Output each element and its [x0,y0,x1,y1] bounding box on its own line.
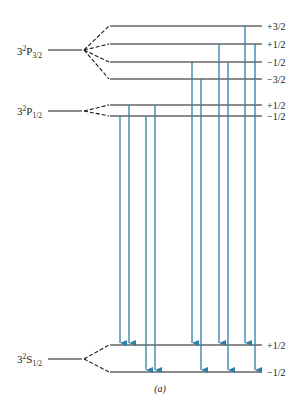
split-p32-2 [84,44,109,50]
m-label: +1/2 [267,39,285,50]
m-label: −1/2 [267,57,285,68]
split-s12-2 [84,359,109,372]
split-p12-1 [84,105,109,111]
split-p32-3 [84,50,109,62]
split-p12-2 [84,111,109,116]
m-label: −1/2 [267,367,285,378]
m-label: −1/2 [267,111,285,122]
m-label: +1/2 [267,340,285,351]
figure-caption: (a) [154,383,166,395]
m-labels: +3/2 +1/2 −1/2 −3/2 +1/2 −1/2 +1/2 −1/2 [267,21,285,378]
transition-arrows [120,26,255,370]
m-label: −3/2 [267,74,285,85]
m-label: +3/2 [267,21,285,32]
split-p32-4 [84,50,109,79]
split-s12-1 [84,345,109,359]
m-label: +1/2 [267,100,285,111]
split-p32-1 [84,26,109,50]
term-label-p12: 32P1/2 [17,104,42,120]
term-label-p32: 32P3/2 [17,44,42,60]
term-label-s12: 32S1/2 [17,352,42,368]
energy-level-diagram: 32P3/2 32P1/2 32S1/2 +3/2 +1/2 −1/2 −3/2… [0,0,305,414]
